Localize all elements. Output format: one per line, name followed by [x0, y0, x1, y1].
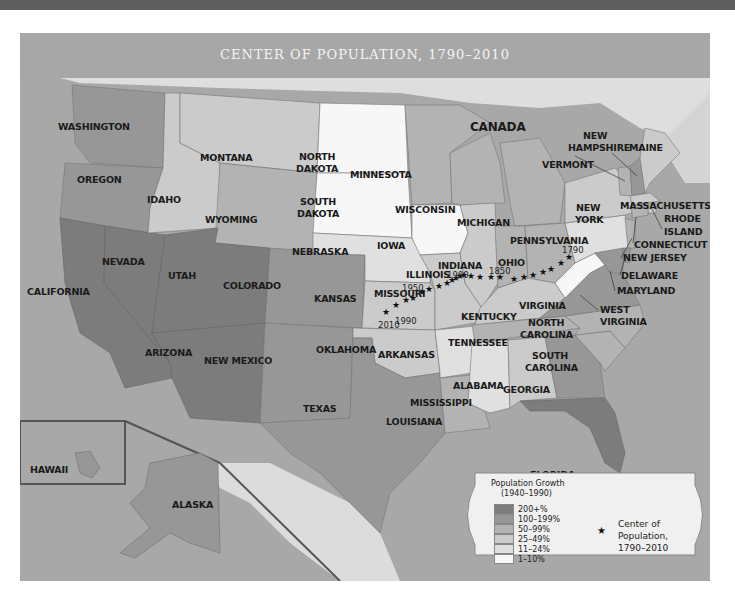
label-south-dakota-1: SOUTH: [300, 196, 336, 207]
label-massachusetts: MASSACHUSETTS: [620, 200, 710, 211]
label-california: CALIFORNIA: [27, 286, 90, 297]
label-west-virginia-2: VIRGINIA: [600, 316, 648, 327]
label-nevada: NEVADA: [102, 256, 145, 267]
label-rhode-island-2: ISLAND: [664, 226, 703, 237]
center-of-population-legend: Center of Population, 1790–2010: [618, 518, 697, 554]
label-nebraska: NEBRASKA: [292, 246, 349, 257]
swatch-50: [494, 524, 514, 534]
label-kansas: KANSAS: [314, 293, 357, 304]
star-1980: ★: [409, 293, 417, 303]
label-iowa: IOWA: [377, 240, 406, 251]
label-oklahoma: OKLAHOMA: [316, 344, 377, 355]
year-2010: 2010: [378, 320, 400, 330]
star-1840: ★: [520, 272, 528, 282]
star-1820: ★: [539, 267, 547, 277]
star-2000: ★: [392, 300, 400, 310]
star-1800: ★: [557, 258, 565, 268]
label-north-dakota-2: DAKOTA: [296, 163, 339, 174]
label-north-carolina-2: CAROLINA: [520, 329, 574, 340]
year-1790: 1790: [562, 245, 584, 255]
label-canada: CANADA: [470, 120, 526, 134]
top-header-strip: [0, 0, 735, 10]
label-new-hampshire-2: HAMPSHIRE: [568, 142, 630, 153]
label-minnesota: MINNESOTA: [350, 169, 412, 180]
label-utah: UTAH: [168, 270, 196, 281]
label-new-york-2: YORK: [574, 214, 604, 225]
star-1880: ★: [476, 272, 484, 282]
label-wyoming: WYOMING: [205, 214, 258, 225]
year-1850: 1850: [489, 266, 511, 276]
label-alaska: ALASKA: [172, 499, 214, 510]
label-maine: MAINE: [629, 142, 663, 153]
label-connecticut: CONNECTICUT: [634, 239, 708, 250]
label-maryland: MARYLAND: [617, 285, 675, 296]
star-1830: ★: [529, 270, 537, 280]
label-virginia: VIRGINIA: [519, 300, 567, 311]
star-1810: ★: [547, 264, 555, 274]
star-1850: ★: [510, 274, 518, 284]
legend-item: 25–49%: [494, 534, 560, 544]
label-new-jersey: NEW JERSEY: [623, 252, 687, 263]
legend-item: 50–99%: [494, 524, 560, 534]
legend: Population Growth (1940–1990) 200+% 100–…: [475, 473, 697, 577]
star-icon: ★: [597, 525, 606, 536]
label-montana: MONTANA: [200, 152, 253, 163]
label-north-dakota-1: NORTH: [299, 151, 336, 162]
legend-item: 200+%: [494, 504, 560, 514]
swatch-25: [494, 534, 514, 544]
label-colorado: COLORADO: [223, 280, 281, 291]
legend-swatches: 200+% 100–199% 50–99% 25–49% 11–24% 1–10…: [494, 504, 560, 564]
star-1950: ★: [435, 281, 443, 291]
label-alabama: ALABAMA: [453, 380, 505, 391]
label-south-carolina-1: SOUTH: [532, 350, 568, 361]
label-vermont: VERMONT: [542, 159, 594, 170]
year-1900: 1900: [447, 270, 469, 280]
label-louisiana: LOUISIANA: [386, 416, 443, 427]
label-arkansas: ARKANSAS: [378, 349, 435, 360]
star-1960: ★: [425, 284, 433, 294]
swatch-1: [494, 554, 514, 564]
label-washington: WASHINGTON: [58, 121, 130, 132]
state-mississippi[interactable]: [468, 340, 510, 413]
star-2010: ★: [382, 307, 390, 317]
label-new-hampshire-1: NEW: [583, 130, 608, 141]
label-oregon: OREGON: [77, 174, 122, 185]
label-georgia: GEORGIA: [503, 384, 551, 395]
label-delaware: DELAWARE: [621, 270, 678, 281]
label-tennessee: TENNESSEE: [448, 337, 508, 348]
legend-item: 11–24%: [494, 544, 560, 554]
label-michigan: MICHIGAN: [457, 217, 510, 228]
legend-item: 1–10%: [494, 554, 560, 564]
state-arkansas[interactable]: [435, 326, 475, 378]
swatch-100: [494, 514, 514, 524]
swatch-11: [494, 544, 514, 554]
label-wisconsin: WISCONSIN: [395, 204, 456, 215]
label-hawaii: HAWAII: [30, 464, 68, 475]
label-kentucky: KENTUCKY: [461, 311, 517, 322]
label-new-mexico: NEW MEXICO: [204, 355, 272, 366]
map-frame: CENTER OF POPULATION, 1790–2010: [20, 33, 710, 581]
label-idaho: IDAHO: [147, 194, 181, 205]
label-south-carolina-2: CAROLINA: [525, 362, 579, 373]
label-mississippi: MISSISSIPPI: [410, 397, 472, 408]
legend-item: 100–199%: [494, 514, 560, 524]
swatch-200: [494, 504, 514, 514]
year-1950: 1950: [402, 283, 424, 293]
legend-title: Population Growth: [491, 479, 565, 489]
label-south-dakota-2: DAKOTA: [297, 208, 340, 219]
label-rhode-island-1: RHODE: [664, 213, 701, 224]
label-texas: TEXAS: [303, 403, 337, 414]
legend-subtitle: (1940–1990): [501, 489, 552, 498]
label-west-virginia-1: WEST: [600, 304, 630, 315]
label-north-carolina-1: NORTH: [528, 317, 565, 328]
label-new-york-1: NEW: [576, 202, 601, 213]
label-arizona: ARIZONA: [145, 347, 193, 358]
